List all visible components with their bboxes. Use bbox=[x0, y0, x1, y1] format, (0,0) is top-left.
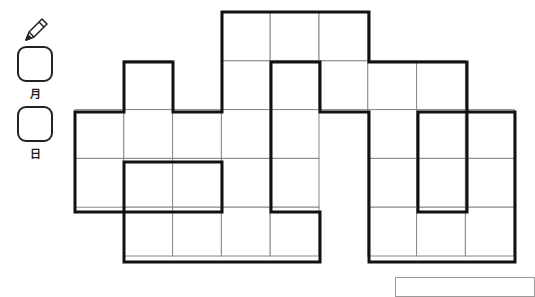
grid-cell[interactable] bbox=[270, 110, 319, 159]
grid-cell[interactable] bbox=[270, 158, 319, 207]
grid-cell[interactable] bbox=[124, 110, 173, 159]
grid-cell[interactable] bbox=[465, 158, 514, 207]
grid-cell[interactable] bbox=[368, 158, 417, 207]
grid-cell[interactable] bbox=[319, 12, 368, 61]
grid-cell[interactable] bbox=[270, 207, 319, 256]
grid-cell[interactable] bbox=[417, 110, 466, 159]
grid-cell[interactable] bbox=[75, 110, 124, 159]
grid-cell[interactable] bbox=[270, 61, 319, 110]
grid-cell[interactable] bbox=[124, 61, 173, 110]
grid-cell[interactable] bbox=[319, 61, 368, 110]
grid-cell[interactable] bbox=[221, 207, 270, 256]
grid-cell[interactable] bbox=[417, 158, 466, 207]
grid-cell[interactable] bbox=[173, 207, 222, 256]
grid-cell[interactable] bbox=[173, 158, 222, 207]
grid-cell[interactable] bbox=[368, 207, 417, 256]
grid-cell[interactable] bbox=[465, 110, 514, 159]
answer-box[interactable] bbox=[395, 277, 535, 297]
grid-cell[interactable] bbox=[221, 61, 270, 110]
grid-cell[interactable] bbox=[417, 61, 466, 110]
grid-cell[interactable] bbox=[221, 110, 270, 159]
grid-cell[interactable] bbox=[465, 207, 514, 256]
grid-cell[interactable] bbox=[417, 207, 466, 256]
grid-cell[interactable] bbox=[173, 110, 222, 159]
grid-cell[interactable] bbox=[221, 12, 270, 61]
grid-cell[interactable] bbox=[221, 158, 270, 207]
grid-cell[interactable] bbox=[75, 158, 124, 207]
grid-cell[interactable] bbox=[124, 158, 173, 207]
grid-cell[interactable] bbox=[124, 207, 173, 256]
grid-cell[interactable] bbox=[270, 12, 319, 61]
grid-cell[interactable] bbox=[368, 110, 417, 159]
grid-cell[interactable] bbox=[368, 61, 417, 110]
